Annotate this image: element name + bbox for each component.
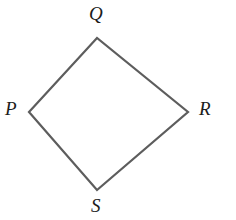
vertex-label-r: R (199, 99, 211, 118)
vertex-label-s: S (91, 196, 101, 215)
vertex-label-p: P (5, 99, 17, 118)
vertex-label-q: Q (89, 4, 103, 23)
geometry-figure: Q R S P (0, 0, 236, 220)
